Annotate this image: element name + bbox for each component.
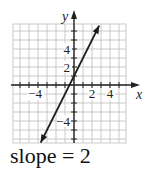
y-axis-label: y bbox=[60, 9, 69, 24]
axes bbox=[11, 10, 140, 143]
svg-text:2: 2 bbox=[64, 60, 71, 75]
svg-text:2: 2 bbox=[89, 86, 96, 101]
svg-text:−4: −4 bbox=[56, 114, 70, 129]
x-axis-label: x bbox=[135, 87, 143, 102]
svg-text:4: 4 bbox=[107, 86, 114, 101]
coordinate-plane: −42442−4 x y bbox=[0, 0, 155, 145]
svg-text:−4: −4 bbox=[28, 86, 42, 101]
slope-caption: slope = 2 bbox=[10, 143, 91, 169]
svg-text:4: 4 bbox=[64, 42, 71, 57]
